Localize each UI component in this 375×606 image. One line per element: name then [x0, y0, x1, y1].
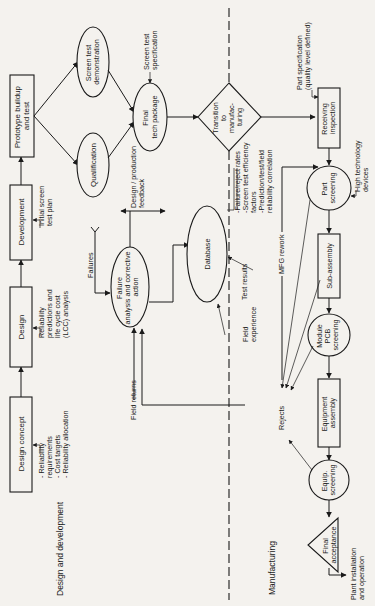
svg-text:Database: Database — [203, 239, 212, 270]
part-screening-circle[interactable]: Part screening — [307, 166, 351, 210]
svg-text:Receiving inspection: Receiving inspection — [320, 101, 337, 135]
transition-diamond[interactable]: Transition to manufac- turing — [198, 83, 261, 151]
design-box[interactable]: Design — [10, 287, 32, 367]
svg-text:Qualification: Qualification — [89, 143, 98, 187]
module-pcb-screening-circle[interactable]: Module PCB screening — [308, 314, 350, 356]
section-label-manufacturing: Manufacturing — [267, 541, 277, 595]
svg-text:Part specification (qual: Part specification (quality level define… — [295, 22, 312, 90]
development-label: Development — [17, 198, 26, 246]
svg-text:Sub-assembly: Sub-assembly — [325, 243, 334, 289]
design-concept-label: Design concept — [17, 416, 26, 472]
feedback-arrow: Design / production feedback — [121, 144, 165, 247]
screen-test-spec-note: Screen test specification — [142, 30, 159, 83]
design-inputs-note: Reliability predictions and life cycle c… — [33, 287, 70, 338]
svg-text:Equip. screening: Equip. screening — [320, 464, 337, 495]
qualification-ellipse[interactable]: Qualification — [77, 133, 109, 197]
high-tech-note: High technology devices — [351, 138, 370, 196]
sub-assembly-box[interactable]: Sub-assembly — [318, 234, 340, 298]
db-outputs-note: -Failure/reject rates -Screen test effic… — [227, 140, 274, 213]
failure-analysis-ellipse[interactable]: Failure analysis and corrective action — [111, 247, 149, 327]
plant-install-label: Plant installation and operation — [349, 546, 366, 600]
svg-text:Field experience: Field experience — [241, 307, 258, 342]
svg-text:Equipment assembly: Equipment assembly — [320, 395, 337, 431]
svg-text:Reliability predictions: Reliability predictions and life cycle c… — [37, 287, 70, 338]
part-spec-note: Part specification (quality level define… — [295, 22, 318, 97]
design-label: Design — [17, 315, 26, 340]
screen-test-demo-ellipse[interactable]: Screen test demonstration — [77, 27, 109, 97]
equipment-assembly-box[interactable]: Equipment assembly — [318, 379, 340, 447]
dev-inputs-note: Initial screen test plan — [33, 184, 54, 228]
svg-text:Initial screen test plan: Initial screen test plan — [37, 184, 54, 226]
database-ellipse[interactable]: Database — [187, 206, 227, 302]
development-box[interactable]: Development — [10, 185, 32, 260]
final-tech-package-ellipse[interactable]: Final tech package — [133, 83, 167, 151]
svg-text:High technology devices: High technology devices — [353, 138, 370, 192]
svg-text:Test results: Test results — [240, 263, 249, 300]
receiving-inspection-box[interactable]: Receiving inspection — [318, 88, 340, 148]
reliability-flow-diagram: Design concept Design Development Protot… — [0, 0, 375, 606]
concept-inputs-note: - Reliability requirements - Cost target… — [33, 410, 70, 478]
field-returns-line: Field returns — [129, 328, 138, 420]
svg-text:Screen test specificatio: Screen test specification — [142, 30, 159, 70]
failure-to-db-line — [149, 245, 189, 302]
svg-text:- Reliability requirem: - Reliability requirements - Cost target… — [37, 410, 70, 478]
svg-text:Screen test demonstratio: Screen test demonstration — [84, 39, 101, 85]
final-acceptance-triangle[interactable]: Final acceptance — [308, 518, 338, 572]
equip-screening-circle[interactable]: Equip. screening — [309, 460, 349, 500]
svg-text:-Failure/reject rates -S: -Failure/reject rates -Screen test effic… — [233, 140, 274, 213]
svg-text:MFG rework: MFG rework — [277, 234, 286, 274]
svg-text:Failures: Failures — [86, 252, 95, 278]
svg-text:Field returns: Field returns — [129, 380, 138, 420]
design-concept-box[interactable]: Design concept — [10, 397, 32, 492]
field-experience-note: Field experience — [218, 304, 258, 342]
test-results-note: Test results — [228, 257, 253, 300]
section-label-design: Design and development — [55, 501, 65, 596]
svg-text:Design / production feed: Design / production feedback — [129, 144, 146, 208]
failures-line: Failures — [86, 227, 110, 293]
svg-text:Rejects: Rejects — [277, 406, 286, 430]
prototype-box[interactable]: Prototype buildup and test — [10, 75, 34, 157]
